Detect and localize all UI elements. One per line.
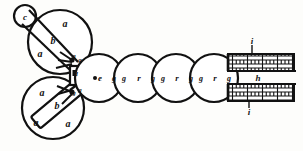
- label-upper-a1: a: [63, 18, 68, 29]
- label-lower-g2: g: [77, 86, 82, 94]
- label-chain-g-4: g: [160, 74, 165, 83]
- label-lower-a3: a: [66, 118, 71, 129]
- label-upper-g2: g: [77, 56, 82, 64]
- label-upper-g1: g: [71, 52, 76, 60]
- label-chain-g-1: g: [111, 74, 116, 83]
- label-upper-b: b: [51, 35, 56, 46]
- figure-canvas: c a a b g g d g g a a a b e g g r g g r …: [0, 0, 303, 151]
- label-chain-g-5: g: [188, 74, 193, 83]
- label-brick-bottom-i: i: [248, 107, 251, 117]
- label-lower-b: b: [55, 100, 60, 111]
- label-upper-a2: a: [38, 48, 43, 59]
- label-brick-top-i: i: [251, 36, 254, 46]
- label-chain-r-3: r: [213, 73, 217, 83]
- label-chain-r-2: r: [175, 73, 179, 83]
- label-chain-r-1: r: [137, 73, 141, 83]
- label-d: d: [74, 70, 78, 78]
- roller-hub-dot: [93, 76, 97, 80]
- label-c: c: [23, 12, 27, 22]
- label-chain-g-7: g: [226, 74, 231, 83]
- label-lower-g1: g: [71, 89, 76, 97]
- label-e: e: [98, 73, 102, 83]
- label-chain-g-2: g: [121, 74, 126, 83]
- label-chain-g-3: g: [150, 74, 155, 83]
- patent-figure: c a a b g g d g g a a a b e g g r g g r …: [0, 0, 303, 151]
- label-lower-a2: a: [34, 117, 39, 128]
- brick-bar-bottom: [228, 84, 294, 101]
- brick-bar-top: [228, 54, 294, 71]
- label-brick-middle-h: h: [255, 73, 260, 83]
- label-chain-g-6: g: [198, 74, 203, 83]
- label-lower-a1: a: [40, 87, 45, 98]
